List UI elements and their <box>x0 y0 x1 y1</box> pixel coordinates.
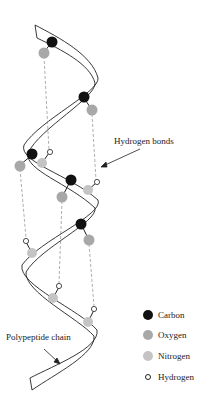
hydrogen-icon <box>145 374 151 380</box>
legend-item-oxygen: Oxygen <box>143 330 187 340</box>
legend-item-hydrogen: Hydrogen <box>143 372 194 382</box>
ribbon-bottom-end <box>30 378 32 390</box>
carbon-icon <box>143 310 153 320</box>
hydrogen-bonds-arrow <box>103 149 140 166</box>
hydrogen-bonds-label: Hydrogen bonds <box>114 136 174 146</box>
legend-item-carbon: Carbon <box>143 310 185 320</box>
oxygen-atoms <box>15 48 98 246</box>
oxygen-icon <box>143 330 153 340</box>
nitrogen-icon <box>143 351 153 361</box>
ribbon-top-end <box>35 25 37 38</box>
legend-item-nitrogen: Nitrogen <box>143 351 190 361</box>
polypeptide-chain-label: Polypeptide chain <box>6 332 71 342</box>
legend-label-oxygen: Oxygen <box>158 330 187 340</box>
legend-label-hydrogen: Hydrogen <box>158 372 194 382</box>
legend-label-carbon: Carbon <box>158 310 185 320</box>
hydrogen-atoms <box>23 149 99 311</box>
legend-label-nitrogen: Nitrogen <box>158 351 190 361</box>
